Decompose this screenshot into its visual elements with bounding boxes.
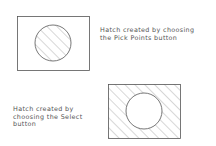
circle-hatch: [30, 20, 80, 70]
caption-line: the Pick Points button: [100, 35, 194, 43]
figure-pick-points: [18, 17, 90, 71]
figure-select: [108, 84, 181, 139]
caption-pick-points: Hatch created by choosing the Pick Point…: [100, 27, 194, 42]
caption-line: button: [13, 121, 83, 129]
caption-select: Hatch created by choosing the Select but…: [13, 106, 83, 129]
rectangle-hatch: [108, 84, 180, 138]
